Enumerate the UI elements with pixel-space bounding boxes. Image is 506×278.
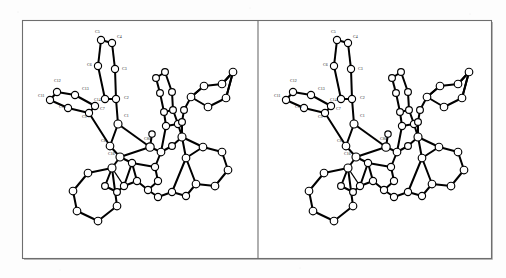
- atom-label-c1: C1: [360, 114, 365, 118]
- atom-label-c10: C10: [295, 105, 302, 109]
- atom-label-c10: C10: [59, 105, 66, 109]
- atom-label-c7: C7: [336, 107, 341, 111]
- atom-label-c80: C80: [380, 137, 387, 141]
- atom-label-c1: C1: [124, 114, 129, 118]
- atom-label-c11: C11: [38, 94, 45, 98]
- atom-label-c5: C5: [331, 30, 336, 34]
- atom-label-c5: C5: [95, 30, 100, 34]
- atom-label-c6: C6: [87, 63, 92, 67]
- atom-label-c14: C14: [94, 98, 101, 102]
- atom-label-c12: C12: [54, 79, 61, 83]
- atom-label-c9: C9: [318, 115, 323, 119]
- atom-label-c16: C16: [108, 152, 115, 156]
- atom-label-c9: C9: [82, 115, 87, 119]
- atom-label-c8: C8: [101, 139, 106, 143]
- atom-label-c4: C4: [117, 35, 122, 39]
- atom-label-c3: C3: [358, 67, 363, 71]
- atom-label-c4: C4: [353, 35, 358, 39]
- atom-label-c7: C7: [100, 107, 105, 111]
- atom-label-c16: C16: [344, 152, 351, 156]
- molecular-structure-svg: C5C4C6C3C12C13C11C14C2C7C10C9C1C8C80C16: [0, 0, 506, 278]
- atom-label-c13: C13: [318, 87, 325, 91]
- atom-label-c80: C80: [144, 137, 151, 141]
- atom-label-c2: C2: [124, 96, 129, 100]
- ortep-figure: C5C4C6C3C12C13C11C14C2C7C10C9C1C8C80C16: [0, 0, 506, 278]
- atom-label-c3: C3: [122, 67, 127, 71]
- atom-label-c11: C11: [274, 94, 281, 98]
- atom-label-c8: C8: [337, 139, 342, 143]
- atom-label-c12: C12: [290, 79, 297, 83]
- atom-label-c6: C6: [323, 63, 328, 67]
- atom-label-c13: C13: [82, 87, 89, 91]
- atom-label-c2: C2: [360, 96, 365, 100]
- atom-label-c14: C14: [330, 98, 337, 102]
